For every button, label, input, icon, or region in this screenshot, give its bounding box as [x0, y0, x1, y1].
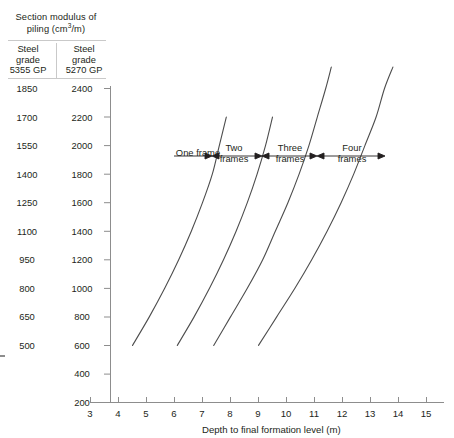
- y-axis-ticks: [104, 89, 110, 403]
- figure-root: Section modulus of piling (cm3/m) Steel …: [0, 0, 454, 438]
- curve-group: [133, 67, 393, 345]
- curve-one-frame: [133, 117, 227, 345]
- plot-area: [0, 0, 454, 438]
- annotation-arrows: [174, 153, 385, 159]
- curve-three-frames: [214, 67, 332, 345]
- curve-four-frames: [259, 67, 393, 345]
